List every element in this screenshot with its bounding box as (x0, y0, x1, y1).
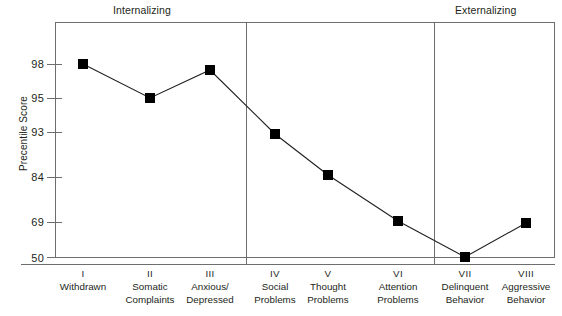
data-line (83, 64, 526, 257)
data-point-marker[interactable] (145, 93, 155, 103)
data-point-marker[interactable] (460, 252, 470, 262)
data-point-marker[interactable] (521, 218, 531, 228)
y-axis-ticks (47, 65, 62, 258)
data-point-marker[interactable] (393, 216, 403, 226)
x-category-label: Aggressive Behavior (483, 280, 562, 306)
data-markers (78, 59, 531, 262)
data-point-marker[interactable] (270, 129, 280, 139)
x-category-8: VIII Aggressive Behavior (483, 267, 562, 307)
x-axis-rule (21, 264, 555, 265)
percentile-score-chart: Internalizing Externalizing Precentile S… (0, 0, 562, 316)
data-point-marker[interactable] (323, 170, 333, 180)
x-category-numeral: VIII (483, 267, 562, 280)
group-dividers (247, 22, 435, 265)
data-point-marker[interactable] (78, 59, 88, 69)
data-point-marker[interactable] (205, 65, 215, 75)
